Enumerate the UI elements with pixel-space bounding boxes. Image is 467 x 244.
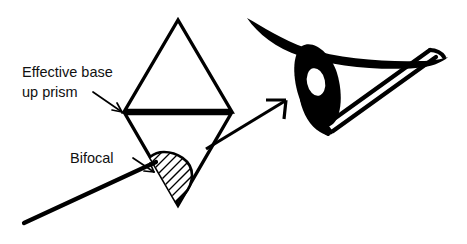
prism-label-line2: up prism bbox=[22, 84, 78, 100]
prism-leader-arrowhead bbox=[112, 103, 122, 112]
spectacle-lens-line bbox=[24, 162, 156, 223]
figure-canvas: Effective base up prism Bifocal bbox=[0, 0, 467, 244]
effective-base-up-prism-annotation: Effective base up prism bbox=[22, 64, 122, 112]
transfer-arrow bbox=[206, 100, 286, 149]
eye bbox=[247, 18, 448, 135]
prism-upper-triangle bbox=[124, 20, 232, 112]
transfer-arrow-shaft bbox=[206, 101, 285, 149]
prism-label-line1: Effective base bbox=[22, 64, 113, 80]
bifocal-label: Bifocal bbox=[70, 150, 114, 166]
prism-leader-line bbox=[93, 92, 122, 112]
